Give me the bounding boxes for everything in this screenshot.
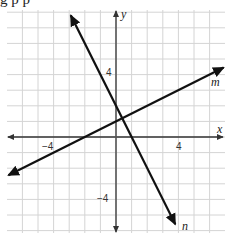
x-tick-label-4: 4	[176, 141, 182, 152]
line-m-label: m	[211, 75, 220, 89]
x-tick-label-neg4: −4	[42, 141, 54, 152]
y-tick-label-4: 4	[106, 67, 112, 78]
line-n-label: n	[182, 219, 188, 233]
y-axis-label: y	[120, 7, 127, 21]
line-n	[71, 15, 176, 224]
x-axis-label: x	[216, 122, 223, 136]
y-tick-label-neg4: −4	[97, 193, 109, 204]
coordinate-plane: x y −4 4 4 −4 m n	[0, 0, 227, 240]
